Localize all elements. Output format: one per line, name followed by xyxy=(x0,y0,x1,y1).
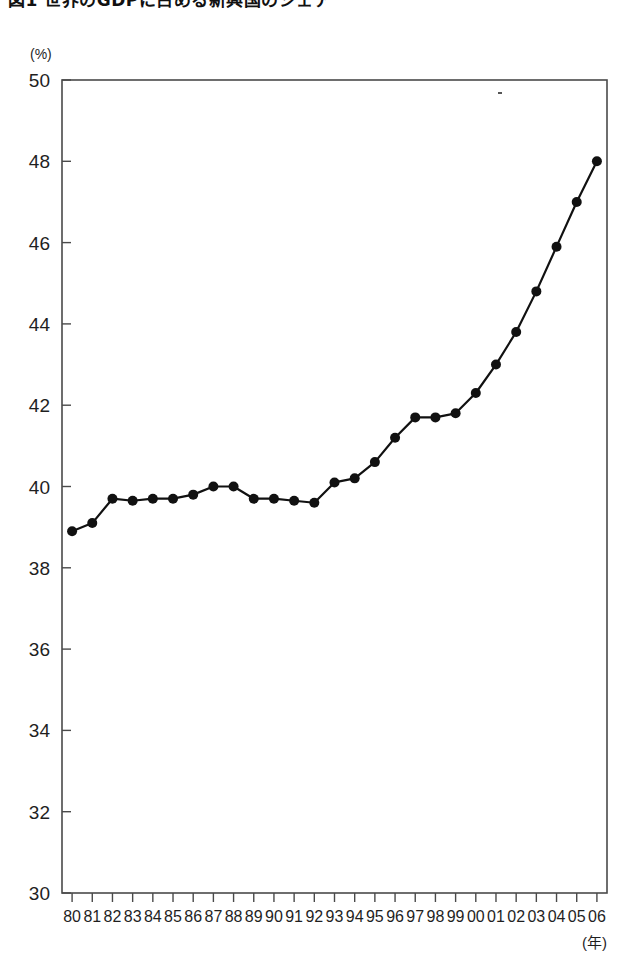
data-point xyxy=(511,327,521,337)
y-axis-unit-label: (%) xyxy=(30,46,52,62)
y-tick-label: 42 xyxy=(29,395,50,416)
data-point xyxy=(572,197,582,207)
data-point xyxy=(531,286,541,296)
y-tick-label: 30 xyxy=(29,883,50,904)
x-tick-label: 85 xyxy=(164,908,182,925)
data-point xyxy=(107,494,117,504)
data-point xyxy=(410,412,420,422)
y-tick-label: 48 xyxy=(29,151,50,172)
y-tick-label: 40 xyxy=(29,477,50,498)
x-tick-label: 83 xyxy=(124,908,142,925)
y-tick-label: 46 xyxy=(29,233,50,254)
data-point xyxy=(208,482,218,492)
x-tick-label: 96 xyxy=(386,908,404,925)
data-point xyxy=(370,457,380,467)
data-point xyxy=(128,496,138,506)
x-tick-label: 80 xyxy=(63,908,81,925)
x-tick-label: 04 xyxy=(548,908,566,925)
x-tick-label: 89 xyxy=(245,908,263,925)
y-tick-label: 50 xyxy=(29,70,50,91)
x-tick-label: 01 xyxy=(487,908,505,925)
x-tick-label: 03 xyxy=(527,908,545,925)
data-point xyxy=(249,494,259,504)
x-tick-label: 90 xyxy=(265,908,283,925)
data-point xyxy=(491,360,501,370)
data-point xyxy=(289,496,299,506)
data-point xyxy=(229,482,239,492)
data-point xyxy=(188,490,198,500)
x-tick-label: 02 xyxy=(507,908,525,925)
data-point xyxy=(350,473,360,483)
data-point xyxy=(87,518,97,528)
data-point xyxy=(592,156,602,166)
x-tick-label: 94 xyxy=(346,908,364,925)
data-point xyxy=(67,526,77,536)
y-tick-label: 44 xyxy=(29,314,51,335)
x-tick-label: 88 xyxy=(225,908,243,925)
x-tick-label: 06 xyxy=(588,908,606,925)
x-tick-label: 82 xyxy=(104,908,122,925)
x-tick-label: 91 xyxy=(285,908,303,925)
y-tick-label: 36 xyxy=(29,639,50,660)
x-tick-label: 87 xyxy=(204,908,222,925)
data-point xyxy=(552,242,562,252)
scan-speck xyxy=(498,92,502,94)
series-line xyxy=(72,161,597,531)
y-tick-label: 38 xyxy=(29,558,50,579)
x-tick-label: 84 xyxy=(144,908,162,925)
x-axis-unit-label: (年) xyxy=(582,934,607,951)
x-tick-label: 99 xyxy=(447,908,465,925)
data-series xyxy=(67,156,602,536)
x-tick-label: 92 xyxy=(305,908,323,925)
y-tick-label: 32 xyxy=(29,802,50,823)
x-tick-label: 93 xyxy=(326,908,344,925)
data-point xyxy=(168,494,178,504)
data-point xyxy=(451,408,461,418)
x-axis: 8081828384858687888990919293949596979899… xyxy=(63,893,606,925)
data-point xyxy=(390,433,400,443)
line-chart: (%) 3032343638404244464850 8081828384858… xyxy=(0,0,640,978)
y-tick-label: 34 xyxy=(29,720,51,741)
y-axis: 3032343638404244464850 xyxy=(29,70,71,904)
series-markers xyxy=(67,156,602,536)
x-tick-label: 95 xyxy=(366,908,384,925)
x-tick-label: 05 xyxy=(568,908,586,925)
data-point xyxy=(148,494,158,504)
data-point xyxy=(330,477,340,487)
data-point xyxy=(430,412,440,422)
data-point xyxy=(471,388,481,398)
x-tick-label: 86 xyxy=(184,908,202,925)
data-point xyxy=(269,494,279,504)
chart-svg: (%) 3032343638404244464850 8081828384858… xyxy=(0,0,640,978)
x-tick-label: 98 xyxy=(427,908,445,925)
x-tick-label: 81 xyxy=(83,908,101,925)
x-tick-label: 00 xyxy=(467,908,485,925)
data-point xyxy=(309,498,319,508)
x-tick-label: 97 xyxy=(406,908,424,925)
